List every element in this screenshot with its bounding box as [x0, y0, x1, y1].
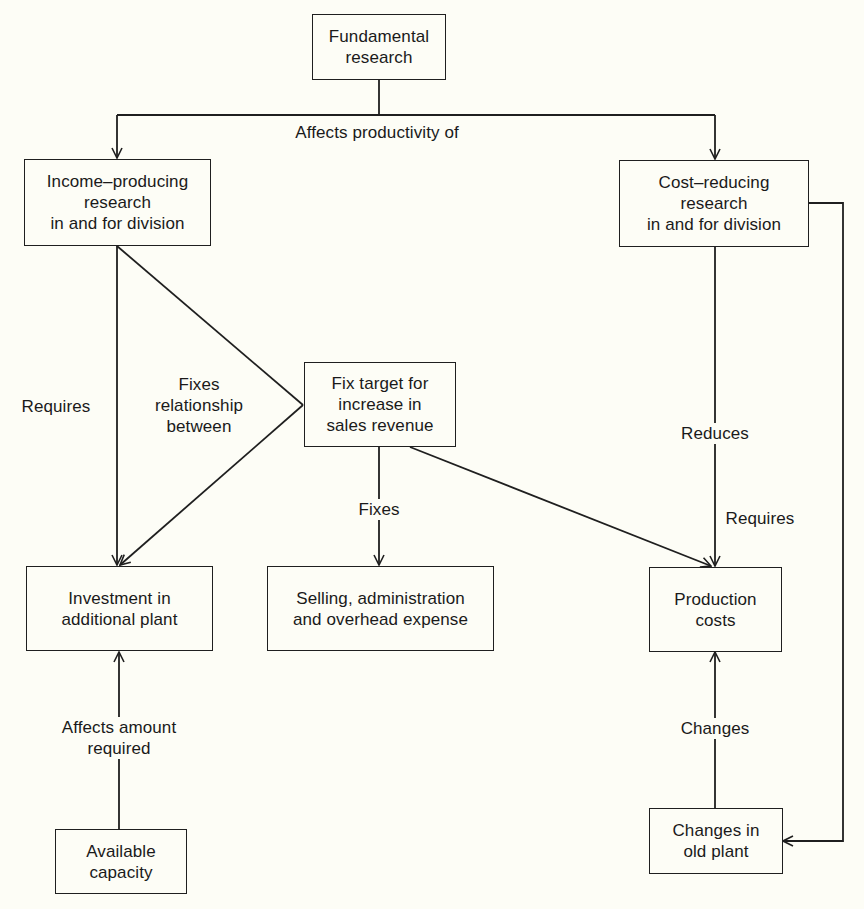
node-text: Fundamental	[329, 26, 429, 47]
node-fix-target-sales-revenue: Fix target for increase in sales revenue	[304, 362, 456, 447]
label-text: Requires	[16, 396, 96, 417]
label-text: relationship	[144, 395, 254, 416]
label-text: required	[52, 738, 186, 759]
node-text: old plant	[683, 841, 748, 862]
node-text: Selling, administration	[296, 588, 465, 609]
label-requires-left: Requires	[16, 396, 96, 417]
label-text: between	[144, 416, 254, 437]
node-text: research	[84, 192, 151, 213]
node-text: research	[681, 193, 748, 214]
node-text: research	[346, 47, 413, 68]
node-text: Changes in	[672, 820, 759, 841]
node-available-capacity: Available capacity	[55, 829, 187, 894]
label-text: Affects productivity of	[284, 122, 470, 143]
node-text: in and for division	[50, 213, 184, 234]
label-fixes-relationship-between: Fixes relationship between	[144, 374, 254, 437]
node-text: in and for division	[647, 214, 781, 235]
label-text: Affects amount	[52, 717, 186, 738]
label-text: Reduces	[678, 423, 752, 444]
label-requires-right: Requires	[720, 508, 800, 529]
node-investment-additional-plant: Investment in additional plant	[26, 566, 213, 651]
node-text: Investment in	[68, 588, 170, 609]
diagram-canvas: Fundamental research Income–producing re…	[0, 0, 864, 909]
node-fundamental-research: Fundamental research	[312, 14, 446, 80]
node-income-producing-research: Income–producing research in and for div…	[24, 159, 211, 246]
node-changes-in-old-plant: Changes in old plant	[649, 808, 783, 874]
node-text: sales revenue	[326, 415, 433, 436]
node-text: capacity	[89, 862, 152, 883]
node-text: increase in	[338, 394, 421, 415]
node-text: Production	[674, 589, 756, 610]
node-selling-administration-overhead: Selling, administration and overhead exp…	[267, 566, 494, 651]
label-changes: Changes	[675, 718, 755, 739]
node-cost-reducing-research: Cost–reducing research in and for divisi…	[619, 160, 809, 247]
edge-fix-target-to-production	[410, 447, 711, 566]
node-production-costs: Production costs	[649, 567, 782, 652]
node-text: Cost–reducing	[659, 172, 770, 193]
node-text: and overhead expense	[293, 609, 468, 630]
label-fixes: Fixes	[352, 499, 406, 520]
label-text: Fixes	[144, 374, 254, 395]
node-text: additional plant	[62, 609, 178, 630]
label-affects-productivity-of: Affects productivity of	[284, 122, 470, 143]
node-text: Available	[86, 841, 156, 862]
node-text: Income–producing	[47, 171, 188, 192]
node-text: Fix target for	[332, 373, 429, 394]
node-text: costs	[695, 610, 735, 631]
label-affects-amount-required: Affects amount required	[52, 717, 186, 759]
label-text: Fixes	[352, 499, 406, 520]
label-text: Requires	[720, 508, 800, 529]
label-text: Changes	[675, 718, 755, 739]
label-reduces: Reduces	[678, 423, 752, 444]
